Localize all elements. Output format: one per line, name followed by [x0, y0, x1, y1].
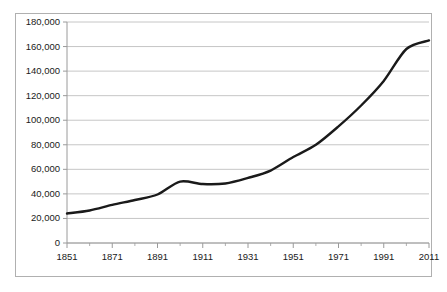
y-axis-tick-label: 140,000: [16, 66, 60, 76]
x-axis-tick-label: 1931: [226, 252, 270, 262]
y-axis-tick-label: 60,000: [16, 164, 60, 174]
y-axis-tick-label: 0: [16, 238, 60, 248]
x-axis-tick-label: 1871: [90, 252, 134, 262]
x-axis-tick-label: 1991: [362, 252, 406, 262]
y-axis-tick-label: 20,000: [16, 213, 60, 223]
x-axis-tick-label: 1971: [317, 252, 361, 262]
y-axis-tick-label: 40,000: [16, 189, 60, 199]
x-axis-tick-label: 1911: [181, 252, 225, 262]
chart-plot-frame: 020,00040,00060,00080,000100,000120,0001…: [15, 13, 432, 277]
y-axis-tick-label: 100,000: [16, 115, 60, 125]
y-axis-tick-label: 80,000: [16, 140, 60, 150]
chart-canvas: [16, 14, 431, 276]
y-axis-tick-label: 180,000: [16, 17, 60, 27]
chart-figure: 020,00040,00060,00080,000100,000120,0001…: [0, 0, 447, 292]
x-axis-tick-label: 1891: [136, 252, 180, 262]
x-axis-tick-label: 1851: [45, 252, 89, 262]
y-axis-tick-label: 120,000: [16, 91, 60, 101]
x-axis-tick-label: 2011: [407, 252, 447, 262]
y-axis-tick-label: 160,000: [16, 42, 60, 52]
data-series-line: [67, 40, 429, 213]
x-axis-tick-label: 1951: [271, 252, 315, 262]
